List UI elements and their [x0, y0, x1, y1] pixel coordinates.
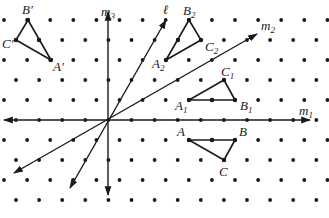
vertex-label: A1 — [174, 98, 187, 115]
lattice-dot — [268, 158, 272, 162]
lattice-dot — [314, 158, 318, 162]
lattice-dot — [95, 178, 99, 182]
lattice-dot — [60, 38, 64, 42]
lattice-dot — [60, 158, 64, 162]
lattice-dot — [164, 98, 168, 102]
lattice-dots — [2, 18, 329, 202]
lattice-dot — [326, 18, 329, 22]
lattice-dot — [37, 78, 41, 82]
lattice-dot — [302, 98, 306, 102]
lattice-dot — [199, 78, 203, 82]
vertex-label: C2 — [205, 39, 219, 56]
vertex-label: B1 — [240, 98, 252, 115]
vertex-dot — [14, 38, 18, 42]
vertex-dot — [233, 138, 237, 142]
lattice-dot — [130, 158, 134, 162]
lattice-dot — [2, 178, 6, 182]
lattice-dot — [14, 158, 18, 162]
lattice-dot — [187, 58, 191, 62]
lattice-dot — [118, 58, 122, 62]
lattice-dot — [279, 18, 283, 22]
triangle-2 — [166, 20, 201, 60]
line-label-m1: m1 — [299, 103, 313, 120]
lattice-dot — [256, 58, 260, 62]
lattice-dot — [210, 18, 214, 22]
lattice-dot — [141, 138, 145, 142]
lattice-dot — [25, 178, 29, 182]
line-label-m3: m3 — [101, 4, 115, 21]
lattice-dot — [291, 38, 295, 42]
lattice-dot — [279, 178, 283, 182]
lattice-dot — [233, 58, 237, 62]
lattice-dot — [245, 78, 249, 82]
lattice-dot — [25, 98, 29, 102]
lattice-dot — [71, 18, 75, 22]
lattice-dot — [245, 198, 249, 202]
lattice-dot — [279, 138, 283, 142]
line-m2 — [14, 34, 257, 173]
lattice-dot — [256, 98, 260, 102]
lattice-dot — [95, 58, 99, 62]
lattice-dot — [118, 178, 122, 182]
lattice-dot — [326, 58, 329, 62]
vertex-label: A — [176, 124, 185, 139]
lattice-dot — [256, 178, 260, 182]
lattice-dot — [83, 38, 87, 42]
lattice-dot — [130, 198, 134, 202]
triangle-3 — [16, 20, 51, 60]
vertex-dot — [164, 58, 168, 62]
vertex-label: A2 — [151, 56, 165, 73]
line-label-l: ℓ — [163, 2, 169, 17]
lattice-dot — [291, 78, 295, 82]
lattice-dot — [83, 78, 87, 82]
vertex-label: B2 — [183, 3, 196, 20]
lattice-dot — [302, 58, 306, 62]
lattice-dot — [210, 178, 214, 182]
lattice-dot — [222, 198, 226, 202]
lattice-dot — [291, 158, 295, 162]
lattice-dot — [83, 198, 87, 202]
lattice-dot — [48, 178, 52, 182]
lattice-dot — [118, 138, 122, 142]
lattice-dot — [164, 178, 168, 182]
edge-midpoint-dot — [37, 38, 41, 42]
line-l — [70, 20, 166, 188]
lattice-dot — [233, 18, 237, 22]
reflection-lines — [4, 12, 310, 195]
lattice-dot — [302, 138, 306, 142]
lattice-dot — [141, 18, 145, 22]
lattice-dot — [164, 138, 168, 142]
lattice-dot — [48, 18, 52, 22]
lattice-dot — [222, 38, 226, 42]
lattice-dot — [37, 198, 41, 202]
lattice-dot — [176, 198, 180, 202]
lattice-dot — [279, 98, 283, 102]
lattice-dot — [268, 38, 272, 42]
triangle-1 — [189, 80, 235, 100]
vertex-label: C1 — [221, 64, 234, 81]
lattice-dot — [71, 58, 75, 62]
lattice-dot — [199, 198, 203, 202]
lattice-dot — [268, 78, 272, 82]
lattice-dot — [326, 178, 329, 182]
lattice-dot — [71, 98, 75, 102]
lattice-dot — [153, 158, 157, 162]
lattice-dot — [268, 198, 272, 202]
lattice-dot — [95, 18, 99, 22]
line-label-m2: m2 — [261, 18, 275, 35]
vertex-label: B′ — [22, 2, 33, 17]
lattice-dot — [314, 78, 318, 82]
lattice-dot — [199, 158, 203, 162]
vertex-dot — [233, 98, 237, 102]
lattice-dot — [291, 198, 295, 202]
lattice-dot — [314, 38, 318, 42]
lattice-dot — [153, 198, 157, 202]
lattice-dot — [60, 198, 64, 202]
lattice-canvas: m1m2m3ℓABCA1B1C1A2B2C2A′B′C′ — [0, 0, 329, 218]
edge-midpoint-dot — [210, 138, 214, 142]
lattice-dot — [25, 138, 29, 142]
lattice-dot — [326, 98, 329, 102]
lattice-dot — [14, 78, 18, 82]
vertex-label: B — [239, 124, 247, 139]
lattice-dot — [48, 98, 52, 102]
